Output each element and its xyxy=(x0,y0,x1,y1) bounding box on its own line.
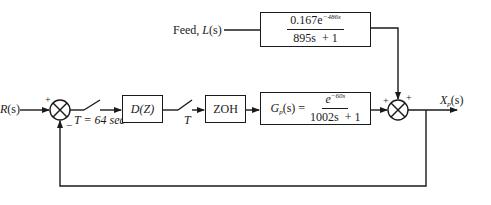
feed-label: Feed, L(s) xyxy=(173,24,222,36)
disturbance-denominator: 895s + 1 xyxy=(293,30,337,46)
zoh-block: ZOH xyxy=(205,95,246,123)
disturbance-numerator: 0.167e−486s xyxy=(287,13,343,30)
disturbance-num-exp: −486s xyxy=(323,13,341,21)
plant-var: G xyxy=(270,101,279,115)
controller-block: D(Z) xyxy=(122,95,163,123)
summing-junction-1 xyxy=(50,100,70,120)
input-arg: (s) xyxy=(7,102,20,116)
feed-var: L xyxy=(202,23,209,37)
controller-label: D(Z) xyxy=(131,102,154,117)
summer2-left-plus-sign: + xyxy=(383,96,389,106)
plant-numerator: e−60s xyxy=(322,92,348,109)
summer2-top-plus-sign: + xyxy=(406,93,412,103)
feed-arg: (s) xyxy=(209,23,222,37)
disturbance-transfer-function: 0.167e−486s 895s + 1 xyxy=(287,13,343,46)
summer1-plus-sign: + xyxy=(45,95,51,105)
summing-junction-2 xyxy=(388,100,408,120)
sampler-1-label: T = 64 sec xyxy=(74,114,125,126)
output-label: Xp(s) xyxy=(440,94,464,108)
feed-prefix: Feed, xyxy=(173,23,202,37)
disturbance-num-coeff: 0.167e xyxy=(290,13,322,27)
zoh-label: ZOH xyxy=(213,102,238,117)
plant-transfer-function: e−60s 1002s + 1 xyxy=(310,92,360,125)
plant-num-exp: −60s xyxy=(331,92,345,100)
output-arg: (s) xyxy=(451,93,464,107)
sampler-2-switch xyxy=(178,100,192,110)
plant-block: Gp(s) = e−60s 1002s + 1 xyxy=(260,92,371,125)
sampler-2-label: T xyxy=(184,114,191,126)
input-label: R(s) xyxy=(0,103,20,115)
disturbance-block: 0.167e−486s 895s + 1 xyxy=(260,12,371,47)
plant-arg: (s) = xyxy=(283,101,305,115)
summer1-minus-sign: − xyxy=(66,120,72,131)
plant-lhs: Gp(s) = xyxy=(270,101,305,116)
sampler-1-switch xyxy=(84,100,100,110)
plant-denominator: 1002s + 1 xyxy=(310,109,360,125)
